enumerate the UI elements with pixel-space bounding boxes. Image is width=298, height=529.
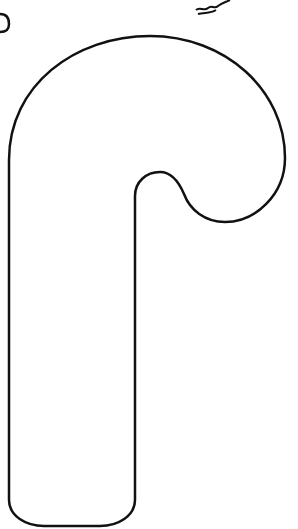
candy-cane-outline (9, 36, 285, 526)
decorative-squiggle (196, 0, 230, 14)
cropped-shape-fragment (0, 14, 9, 32)
coloring-page-canvas (0, 0, 298, 529)
